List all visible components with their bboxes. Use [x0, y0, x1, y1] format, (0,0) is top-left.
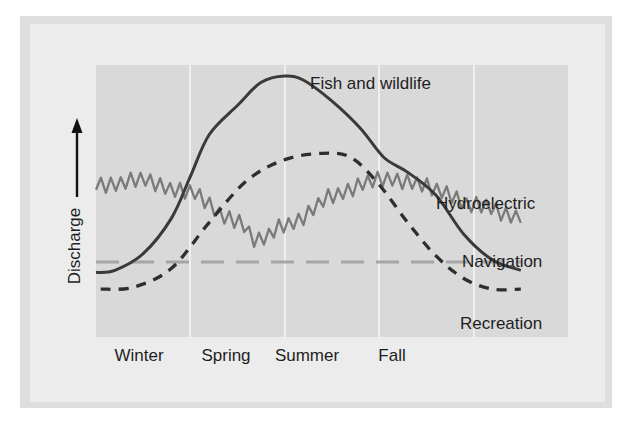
x-tick-label-fall: Fall [378, 346, 405, 365]
x-tick-label-spring: Spring [201, 346, 250, 365]
series-label-fish-and-wildlife: Fish and wildlife [310, 74, 431, 93]
series-label-hydroelectric: Hydroelectric [436, 194, 536, 213]
y-axis-arrow [72, 118, 83, 197]
series-label-recreation: Recreation [460, 314, 542, 333]
series-label-navigation: Navigation [462, 252, 542, 271]
discharge-chart: Discharge Fish and wildlife Hydroelectri… [0, 0, 633, 433]
x-tick-label-winter: Winter [114, 346, 163, 365]
y-axis-arrow-head [72, 118, 83, 133]
x-tick-label-summer: Summer [275, 346, 340, 365]
y-axis-label: Discharge [65, 208, 84, 285]
